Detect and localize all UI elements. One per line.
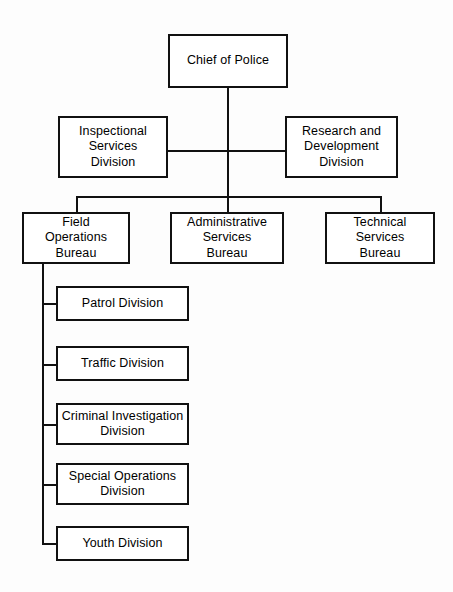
connector-stub-criminal (42, 424, 57, 426)
node-technical-services-bureau-label: Technical Services Bureau (350, 215, 409, 261)
connector-drop-administrative (227, 196, 229, 212)
connector-stub-traffic (42, 364, 57, 366)
node-traffic-division[interactable]: Traffic Division (56, 346, 189, 381)
node-research-and-development-division[interactable]: Research and Development Division (285, 116, 398, 178)
org-chart: Chief of Police Inspectional Services Di… (0, 0, 453, 592)
node-special-operations-division[interactable]: Special Operations Division (56, 463, 189, 505)
node-field-operations-bureau[interactable]: Field Operations Bureau (22, 212, 130, 264)
connector-stub-special (42, 484, 57, 486)
node-patrol-division-label: Patrol Division (79, 296, 166, 311)
connector-staff-lateral (168, 150, 294, 152)
node-special-operations-division-label: Special Operations Division (66, 469, 179, 500)
connector-bureau-bar (76, 196, 382, 198)
node-inspectional-services-division[interactable]: Inspectional Services Division (58, 116, 168, 178)
connector-division-spine (42, 264, 44, 545)
connector-stub-patrol (42, 303, 57, 305)
node-inspectional-services-division-label: Inspectional Services Division (76, 124, 150, 170)
node-chief-of-police-label: Chief of Police (184, 53, 272, 68)
node-criminal-investigation-division[interactable]: Criminal Investigation Division (56, 403, 189, 445)
node-administrative-services-bureau[interactable]: Administrative Services Bureau (170, 212, 284, 264)
connector-stub-youth (42, 543, 57, 545)
connector-drop-technical (380, 196, 382, 212)
node-traffic-division-label: Traffic Division (78, 356, 167, 371)
node-chief-of-police[interactable]: Chief of Police (168, 34, 288, 88)
node-youth-division[interactable]: Youth Division (56, 526, 189, 561)
node-administrative-services-bureau-label: Administrative Services Bureau (184, 215, 270, 261)
node-research-and-development-division-label: Research and Development Division (299, 124, 384, 170)
node-technical-services-bureau[interactable]: Technical Services Bureau (325, 212, 435, 264)
node-patrol-division[interactable]: Patrol Division (56, 286, 189, 321)
connector-drop-field-ops (76, 196, 78, 212)
node-field-operations-bureau-label: Field Operations Bureau (42, 215, 110, 261)
node-youth-division-label: Youth Division (79, 536, 165, 551)
connector-chief-trunk (227, 88, 229, 198)
node-criminal-investigation-division-label: Criminal Investigation Division (59, 409, 187, 440)
